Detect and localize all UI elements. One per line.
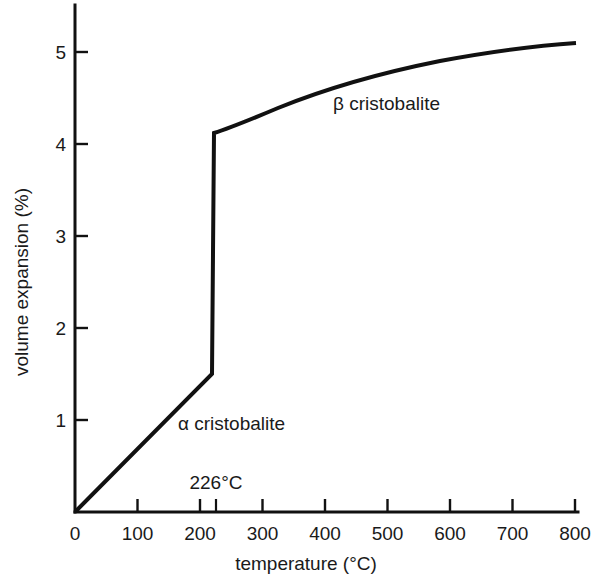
y-tick-label-5: 5	[55, 42, 66, 63]
chart-figure: 1 2 3 4 5 0 100 200 300 400 500 600 700 …	[0, 0, 597, 575]
x-axis-title: temperature (°C)	[235, 553, 377, 574]
x-tick-label-100: 100	[122, 523, 154, 544]
x-tick-label-200: 200	[184, 523, 216, 544]
y-tick-label-3: 3	[55, 226, 66, 247]
x-tick-label-300: 300	[247, 523, 279, 544]
x-tick-label-700: 700	[497, 523, 529, 544]
y-axis-title: volume expansion (%)	[11, 188, 32, 376]
x-tick-label-400: 400	[309, 523, 341, 544]
y-tick-label-4: 4	[55, 134, 66, 155]
alpha-cristobalite-label: α cristobalite	[178, 413, 285, 434]
y-tick-label-2: 2	[55, 318, 66, 339]
x-tick-label-0: 0	[70, 523, 81, 544]
x-tick-label-800: 800	[559, 523, 591, 544]
transition-temperature-annotation: 226°C	[189, 472, 242, 493]
chart-background	[0, 0, 597, 575]
x-tick-label-500: 500	[372, 523, 404, 544]
beta-cristobalite-label: β cristobalite	[333, 93, 440, 114]
x-tick-label-600: 600	[434, 523, 466, 544]
cristobalite-volume-expansion-chart: 1 2 3 4 5 0 100 200 300 400 500 600 700 …	[0, 0, 597, 575]
y-tick-label-1: 1	[55, 410, 66, 431]
